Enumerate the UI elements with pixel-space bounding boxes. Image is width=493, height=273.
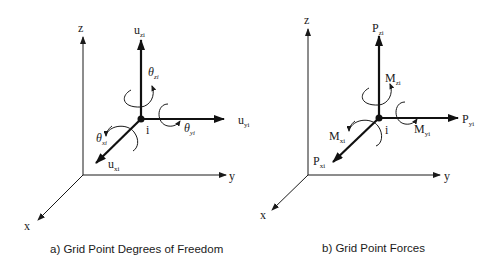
my-label: Myi [414, 122, 430, 138]
z-rotation-arc [124, 86, 153, 107]
px-label: Pxi [313, 154, 325, 170]
mz-label: Mzi [385, 71, 401, 87]
grid-point-node [376, 115, 383, 122]
x-axis-label: x [260, 208, 266, 222]
uz-label: uzi [134, 23, 145, 39]
theta-y-label: θyi [184, 121, 195, 137]
x-axis-label: x [24, 219, 30, 233]
theta-z-label: θzi [148, 65, 159, 81]
global-axes: z y x [24, 21, 235, 233]
ux-label: uxi [108, 157, 120, 173]
y-axis-label: y [229, 169, 235, 183]
pz-label: Pzi [372, 21, 384, 37]
z-moment-arc [362, 84, 391, 105]
uy-label: uyi [238, 113, 250, 129]
y-moment-arc [396, 102, 417, 124]
z-axis-label: z [304, 13, 309, 27]
mx-label: Mxi [329, 129, 345, 145]
y-rotation-arc [159, 104, 180, 126]
diagram-canvas: z y x i uzi uyi uxi θzi θyi θxi a) Grid … [0, 0, 493, 273]
node-label: i [385, 123, 389, 137]
caption-b: b) Grid Point Forces [322, 242, 425, 254]
theta-x-label: θxi [96, 131, 107, 147]
z-axis-label: z [78, 21, 83, 35]
panel-a-degrees-of-freedom: z y x i uzi uyi uxi θzi θyi θxi a) Grid … [24, 21, 250, 255]
x-axis [38, 175, 83, 220]
node-label: i [146, 123, 150, 137]
py-label: Pyi [462, 112, 474, 128]
x-axis [272, 175, 308, 210]
y-axis-label: y [444, 169, 450, 183]
caption-a: a) Grid Point Degrees of Freedom [50, 243, 223, 255]
grid-point-node [138, 116, 145, 123]
panel-b-forces: z y x i Pzi Pyi Pxi Mzi Myi Mxi b) Grid … [260, 13, 474, 254]
